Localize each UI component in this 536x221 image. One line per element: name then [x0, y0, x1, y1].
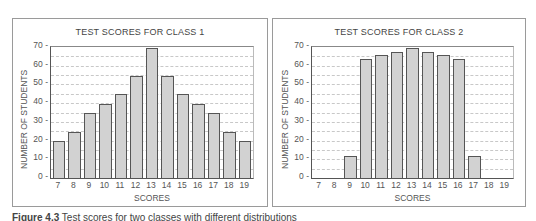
figure-label: Figure 4.3	[12, 212, 59, 221]
y-tick-label: 70 -	[28, 40, 48, 50]
x-tick-label: 8	[326, 180, 342, 190]
x-tick-label: 9	[342, 180, 358, 190]
x-tick-label: 14	[159, 180, 175, 190]
y-tick-label: 50 -	[289, 77, 309, 87]
chart-title: TEST SCORES FOR CLASS 1	[13, 27, 267, 37]
y-tick-label: 50 -	[28, 77, 48, 87]
y-tick-label: 60 -	[28, 59, 48, 69]
bar	[130, 76, 143, 178]
x-tick-label: 16	[450, 180, 466, 190]
plot-area	[50, 46, 254, 179]
y-tick-label: 30 -	[28, 115, 48, 125]
bar	[99, 104, 112, 178]
chart-class-2: TEST SCORES FOR CLASS 2 NUMBER OF STUDEN…	[272, 18, 526, 207]
y-tick-label: 10 -	[289, 152, 309, 162]
bar	[360, 59, 372, 178]
x-tick-label: 18	[221, 180, 237, 190]
bar	[177, 94, 190, 178]
bar	[161, 76, 174, 178]
chart-class-1: TEST SCORES FOR CLASS 1 NUMBER OF STUDEN…	[12, 18, 268, 207]
y-tick-label: 30 -	[289, 115, 309, 125]
y-tick-label: 20 -	[28, 134, 48, 144]
bar	[239, 141, 252, 178]
bar	[115, 94, 128, 178]
x-axis-label: SCORES	[50, 193, 254, 203]
figure-caption: Figure 4.3 Test scores for two classes w…	[12, 212, 297, 221]
bar	[375, 55, 387, 178]
x-tick-label: 12	[127, 180, 143, 190]
y-tick-label: 40 -	[289, 96, 309, 106]
bar	[208, 113, 221, 178]
y-tick-label: 0 -	[28, 171, 48, 181]
plot-area	[311, 46, 514, 179]
x-tick-label: 15	[174, 180, 190, 190]
x-tick-label: 19	[496, 180, 512, 190]
y-tick-label: 0 -	[289, 171, 309, 181]
x-tick-label: 18	[481, 180, 497, 190]
bar	[84, 113, 97, 178]
bar	[391, 52, 403, 178]
x-tick-label: 7	[311, 180, 327, 190]
bar	[468, 156, 480, 178]
y-tick-label: 60 -	[289, 59, 309, 69]
x-tick-label: 8	[65, 180, 81, 190]
x-tick-label: 16	[190, 180, 206, 190]
x-tick-label: 13	[143, 180, 159, 190]
bar	[344, 156, 356, 178]
y-tick-label: 10 -	[28, 152, 48, 162]
bar	[146, 48, 159, 178]
x-tick-label: 17	[465, 180, 481, 190]
x-axis-label: SCORES	[311, 193, 514, 203]
x-tick-label: 11	[112, 180, 128, 190]
y-tick-label: 70 -	[289, 40, 309, 50]
bar	[437, 55, 449, 178]
x-tick-label: 7	[50, 180, 66, 190]
x-tick-label: 10	[357, 180, 373, 190]
bar	[53, 141, 66, 178]
bar	[422, 52, 434, 178]
x-tick-label: 14	[419, 180, 435, 190]
x-tick-label: 15	[434, 180, 450, 190]
bar	[223, 132, 236, 178]
figure-caption-text: Test scores for two classes with differe…	[62, 212, 297, 221]
bar	[406, 48, 418, 178]
x-tick-label: 17	[205, 180, 221, 190]
y-tick-label: 40 -	[28, 96, 48, 106]
x-tick-label: 9	[81, 180, 97, 190]
chart-title: TEST SCORES FOR CLASS 2	[273, 27, 525, 37]
x-tick-label: 13	[404, 180, 420, 190]
x-tick-label: 19	[236, 180, 252, 190]
bar	[453, 59, 465, 178]
x-tick-label: 11	[373, 180, 389, 190]
x-tick-label: 12	[388, 180, 404, 190]
y-tick-label: 20 -	[289, 134, 309, 144]
x-tick-label: 10	[96, 180, 112, 190]
bar	[68, 132, 81, 178]
bar	[192, 104, 205, 178]
